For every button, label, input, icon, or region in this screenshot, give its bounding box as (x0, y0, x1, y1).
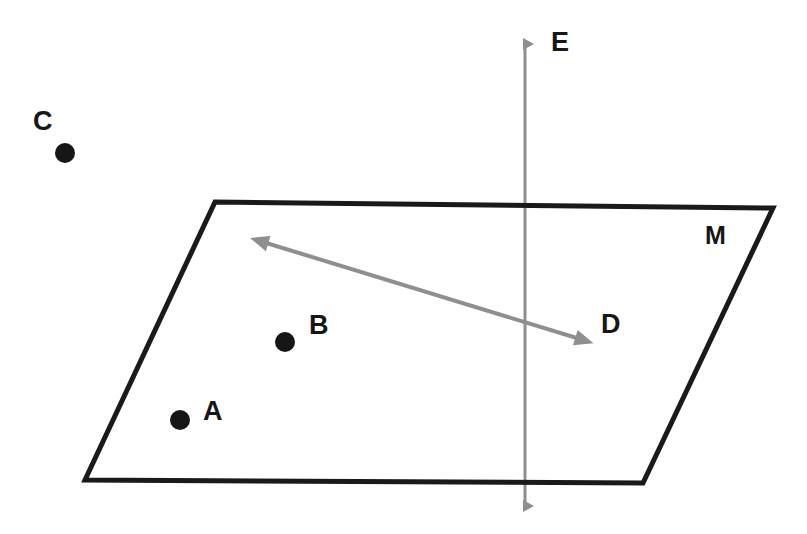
line-d-label: D (601, 311, 621, 338)
point-a-dot (170, 410, 190, 430)
point-a-label: A (203, 398, 223, 425)
point-c-label: C (33, 108, 53, 135)
point-b-dot (275, 332, 295, 352)
geometry-diagram (0, 0, 807, 534)
plane-m-label: M (705, 223, 726, 248)
diagram-canvas: A B C D E M (0, 0, 807, 534)
line-e-label: E (551, 29, 569, 56)
plane-m-outline (85, 202, 773, 483)
point-c-dot (55, 143, 75, 163)
point-b-label: B (309, 312, 329, 339)
